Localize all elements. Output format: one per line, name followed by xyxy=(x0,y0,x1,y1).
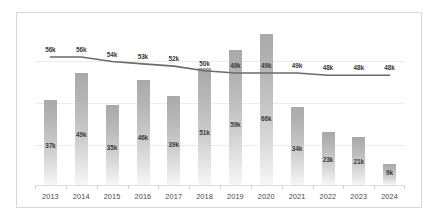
x-axis-tick xyxy=(220,185,221,189)
line-value-label: 49k xyxy=(220,62,251,69)
x-axis-tick xyxy=(404,185,405,189)
line-value-label: 49k xyxy=(282,62,313,69)
x-axis-tick xyxy=(374,185,375,189)
x-axis-label-2014: 2014 xyxy=(66,192,97,201)
x-axis-label-2017: 2017 xyxy=(158,192,189,201)
line-value-label: 50k xyxy=(189,60,220,67)
chart-frame: 37k49k35k46k39k51k59k66k34k23k21k9k 56k5… xyxy=(16,12,422,208)
x-axis-tick xyxy=(343,185,344,189)
x-axis-tick xyxy=(189,185,190,189)
line-value-label: 54k xyxy=(97,51,128,58)
line-value-label: 56k xyxy=(66,46,97,53)
line-value-label: 53k xyxy=(128,53,159,60)
x-axis-tick xyxy=(97,185,98,189)
x-axis-label-2021: 2021 xyxy=(282,192,313,201)
x-axis-label-2024: 2024 xyxy=(374,192,405,201)
line-value-label: 49k xyxy=(251,62,282,69)
x-axis-label-2019: 2019 xyxy=(220,192,251,201)
plot-area: 37k49k35k46k39k51k59k66k34k23k21k9k 56k5… xyxy=(35,25,405,185)
x-axis-tick xyxy=(35,185,36,189)
line-value-label: 48k xyxy=(313,64,344,71)
x-axis-tick xyxy=(66,185,67,189)
x-axis-label-2016: 2016 xyxy=(128,192,159,201)
x-axis-label-2020: 2020 xyxy=(251,192,282,201)
line-value-label: 48k xyxy=(374,64,405,71)
x-axis-label-2023: 2023 xyxy=(343,192,374,201)
x-axis-labels: 2013201420152016201720182019202020212022… xyxy=(35,192,405,206)
line-value-label: 48k xyxy=(343,64,374,71)
x-axis-label-2018: 2018 xyxy=(189,192,220,201)
x-axis-tick xyxy=(128,185,129,189)
x-axis-tick xyxy=(251,185,252,189)
line-value-label: 56k xyxy=(35,46,66,53)
x-axis-tick xyxy=(313,185,314,189)
x-axis-ticks xyxy=(35,185,405,190)
x-axis-tick xyxy=(158,185,159,189)
x-axis-label-2015: 2015 xyxy=(97,192,128,201)
x-axis-tick xyxy=(282,185,283,189)
x-axis-label-2022: 2022 xyxy=(313,192,344,201)
x-axis-label-2013: 2013 xyxy=(35,192,66,201)
line-value-label: 52k xyxy=(158,55,189,62)
